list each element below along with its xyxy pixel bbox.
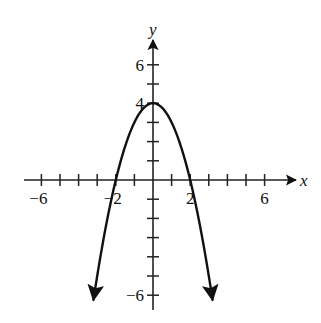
y-tick-label: 6 <box>136 56 145 75</box>
y-tick-label: −6 <box>126 286 144 305</box>
parabola-graph: −6−22664−6 x y <box>0 0 321 323</box>
x-tick-label: 6 <box>260 189 269 208</box>
x-axis-label: x <box>299 171 308 190</box>
y-axis-label: y <box>147 20 157 39</box>
x-tick-label: −6 <box>29 189 47 208</box>
